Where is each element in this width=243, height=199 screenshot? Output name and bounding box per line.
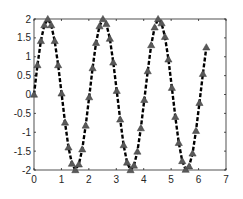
- x-tick-label: 3: [114, 174, 120, 185]
- y-tick-label: -1.5: [14, 146, 32, 157]
- y-tick-label: -2: [22, 165, 31, 176]
- y-tick-label: -1: [22, 127, 31, 138]
- x-tick-label: 2: [86, 174, 92, 185]
- y-tick-label: 2: [25, 14, 31, 25]
- x-tick-label: 6: [196, 174, 202, 185]
- triangle-marker: [44, 15, 51, 21]
- y-tick-label: 1.5: [17, 32, 31, 43]
- y-tick-label: 0: [25, 89, 31, 100]
- x-tick-label: 7: [223, 174, 229, 185]
- y-tick-label: 1: [25, 51, 31, 62]
- x-tick-label: 4: [141, 174, 147, 185]
- y-tick-label: -0.5: [14, 108, 32, 119]
- x-tick-label: 0: [31, 174, 37, 185]
- x-tick-label: 1: [59, 174, 65, 185]
- x-tick-label: 5: [168, 174, 174, 185]
- triangle-marker: [99, 15, 106, 21]
- line-chart: 01234567 -2-1.5-1-0.500.511.52: [0, 0, 243, 199]
- y-tick-label: 0.5: [17, 70, 31, 81]
